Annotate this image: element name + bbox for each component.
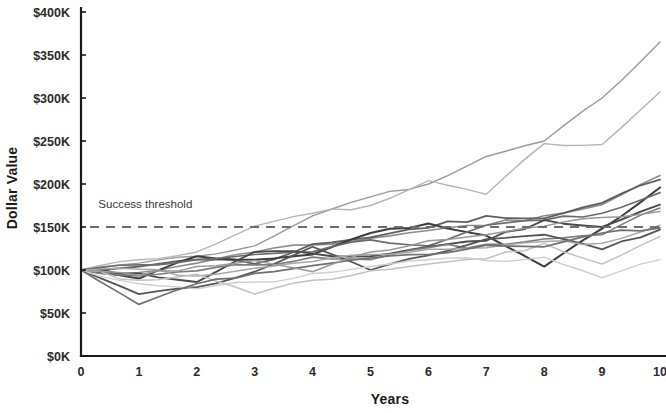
x-tick-label: 9	[599, 365, 606, 379]
x-tick-label: 7	[483, 365, 490, 379]
y-tick-label: $200K	[33, 178, 70, 192]
series-line	[81, 42, 660, 270]
y-tick-label: $300K	[33, 92, 70, 106]
x-tick-labels: 012345678910	[78, 365, 666, 379]
x-tick-label: 4	[309, 365, 316, 379]
x-tick-label: 5	[367, 365, 374, 379]
chart-canvas: $0K$50K$100K$150K$200K$250K$300K$350K$40…	[0, 0, 666, 413]
y-tick-label: $0K	[47, 350, 70, 364]
success-threshold-label: Success threshold	[98, 198, 192, 210]
y-axis-title: Dollar Value	[4, 147, 20, 230]
x-tick-label: 10	[653, 365, 666, 379]
x-tick-label: 1	[135, 365, 142, 379]
y-tick-label: $50K	[40, 307, 70, 321]
series-line	[81, 236, 660, 294]
monte-carlo-projection-chart: $0K$50K$100K$150K$200K$250K$300K$350K$40…	[0, 0, 666, 413]
y-tick-label: $150K	[33, 221, 70, 235]
x-tick-label: 8	[541, 365, 548, 379]
y-tick-labels: $0K$50K$100K$150K$200K$250K$300K$350K$40…	[33, 6, 86, 364]
annotation-layer: Success threshold	[98, 198, 192, 210]
x-tick-label: 0	[78, 365, 85, 379]
x-tick-label: 6	[425, 365, 432, 379]
x-axis-title: Years	[371, 391, 409, 407]
axis-layer	[81, 8, 666, 356]
y-tick-label: $250K	[33, 135, 70, 149]
x-tick-label: 3	[251, 365, 258, 379]
y-tick-label: $400K	[33, 6, 70, 20]
series-layer	[81, 42, 660, 304]
x-tick-label: 2	[193, 365, 200, 379]
y-tick-label: $350K	[33, 49, 70, 63]
y-tick-label: $100K	[33, 264, 70, 278]
